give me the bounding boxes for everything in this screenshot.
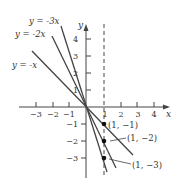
label-point-1-neg2: (1, −2) [127, 133, 157, 143]
y-tick-label: 2 [73, 69, 78, 78]
point-1-neg2 [102, 139, 107, 144]
y-tick-label: 3 [73, 52, 78, 61]
x-tick-label: 2 [118, 110, 123, 119]
y-tick-label: −2 [66, 137, 78, 146]
point-1-neg1 [102, 122, 107, 127]
label-y-neg-2x: y = -2x [14, 29, 46, 39]
x-tick-label: 1 [102, 110, 107, 119]
label-y-neg-x: y = -x [11, 60, 37, 70]
x-tick-label: −3 [30, 110, 42, 119]
y-tick-label: 4 [73, 35, 78, 44]
label-point-1-neg1: (1, −1) [108, 120, 138, 130]
line-y-neg-2x [52, 36, 116, 168]
y-axis-label: y [77, 20, 84, 30]
plot-canvas: −3 −2 −1 1 2 3 4 4 3 2 1 −1 −2 −3 x y y … [0, 0, 183, 186]
y-tick-label: −1 [66, 120, 78, 129]
x-ticks [36, 102, 154, 107]
x-tick-label: −2 [47, 110, 59, 119]
y-tick-label: 1 [73, 86, 78, 95]
x-axis-label: x [166, 109, 171, 119]
point-1-neg3 [102, 156, 107, 161]
y-tick-label: −3 [66, 154, 78, 163]
x-tick-label: 4 [151, 110, 156, 119]
label-point-1-neg3: (1, −3) [132, 160, 162, 170]
x-tick-label: 3 [135, 110, 140, 119]
line-y-neg-3x [61, 26, 107, 172]
graph-figure: −3 −2 −1 1 2 3 4 4 3 2 1 −1 −2 −3 x y y … [0, 0, 183, 186]
x-tick-label: −1 [63, 110, 75, 119]
leader-p2 [110, 138, 126, 141]
label-y-neg-3x: y = -3x [28, 16, 60, 26]
x-axis [19, 105, 170, 110]
